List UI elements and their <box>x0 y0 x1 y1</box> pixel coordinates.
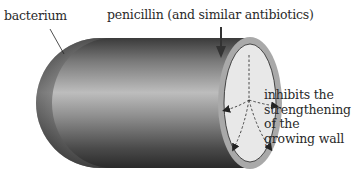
bacterium-label: bacterium <box>4 8 67 23</box>
effect-label: inhibits the strengthening of the growin… <box>264 88 354 146</box>
bacterium-body <box>36 38 250 168</box>
bacterium-pointer-line <box>50 29 64 54</box>
antibiotic-label: penicillin (and similar antibiotics) <box>107 7 314 22</box>
